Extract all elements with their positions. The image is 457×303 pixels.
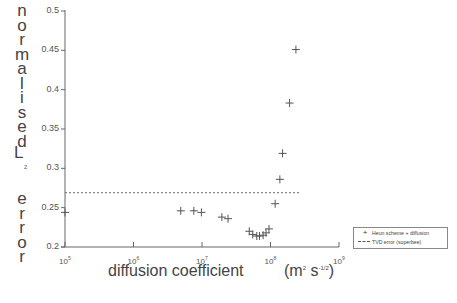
y-label-L: L	[14, 143, 23, 163]
plus-marker-icon	[218, 213, 226, 221]
plus-marker-icon	[276, 175, 284, 183]
y-tick-label: 0.45	[29, 44, 59, 54]
plus-marker-icon	[61, 208, 69, 216]
plus-marker-icon	[292, 46, 300, 54]
plus-marker-icon	[190, 207, 198, 215]
plus-marker-icon	[224, 215, 232, 223]
y-tick-label: 0.35	[29, 123, 59, 133]
plus-marker-icon	[279, 149, 287, 157]
dashed-line-icon	[358, 241, 370, 242]
x-axis-label: diffusion coefficient	[108, 262, 244, 280]
x-tick-label: 108	[265, 255, 277, 266]
plus-marker-icon: +	[358, 228, 372, 237]
units-close: )	[329, 262, 334, 279]
y-label-letter: r	[12, 250, 32, 265]
y-tick-label: 0.25	[29, 202, 59, 212]
units-s: s	[306, 262, 318, 279]
x-tick-label: 105	[59, 255, 71, 266]
legend-label-heun: Heun scheme + diffusion	[372, 230, 429, 236]
legend-item-tvd: TVD error (superbee)	[354, 237, 447, 246]
y-tick-label: 0.5	[29, 5, 59, 15]
x-axis-units: (m2 s-1/2)	[284, 262, 334, 280]
plus-marker-icon	[271, 200, 279, 208]
plus-marker-icon	[286, 99, 294, 107]
units-sup-neg-half: -1/2	[318, 265, 328, 271]
y-tick-label: 0.4	[29, 84, 59, 94]
legend-label-tvd: TVD error (superbee)	[372, 239, 421, 245]
legend-item-heun: + Heun scheme + diffusion	[354, 228, 447, 237]
y-label-subscript: 2	[24, 164, 27, 170]
units-open: (m	[284, 262, 303, 279]
x-tick-label: 109	[333, 255, 345, 266]
y-tick-label: 0.2	[29, 241, 59, 251]
legend: + Heun scheme + diffusion TVD error (sup…	[353, 227, 448, 249]
y-tick-label: 0.3	[29, 162, 59, 172]
plus-marker-icon	[177, 207, 185, 215]
plus-marker-icon	[197, 208, 205, 216]
